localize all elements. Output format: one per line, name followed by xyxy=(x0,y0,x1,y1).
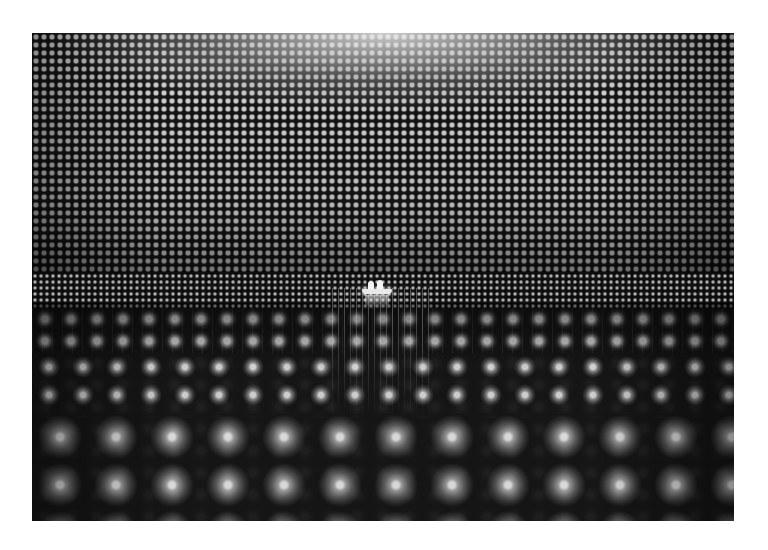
detector-photo xyxy=(32,33,734,521)
boat xyxy=(362,280,392,294)
page-canvas xyxy=(0,0,768,550)
pmt-floor-near xyxy=(32,413,734,521)
boat-reflection xyxy=(365,295,389,309)
boat-hull xyxy=(362,289,392,294)
pmt-wall xyxy=(32,33,734,313)
